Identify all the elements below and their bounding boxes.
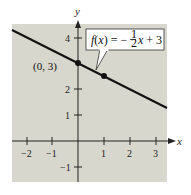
point-x1 [101,73,107,79]
chart: x y −2 −1 1 2 3 4 2 1 −1 (0, 3) f(x) = − [0,0,191,195]
y-tick-label: 1 [65,110,70,121]
y-tick-label: 4 [65,33,70,44]
y-axis-label: y [74,5,80,17]
svg-text:f(x) = −: f(x) = − [91,33,127,47]
x-tick-label: −2 [21,148,32,159]
x-axis-arrow-icon [168,138,176,144]
y-tick-label: 2 [65,84,70,95]
x-tick-label: 2 [127,148,132,159]
svg-text:2: 2 [131,36,137,50]
point-label: (0, 3) [33,60,57,73]
x-tick-label: −1 [46,148,57,159]
y-tick-label: −1 [60,162,71,173]
svg-text:x + 3: x + 3 [137,33,162,47]
point-y-intercept [75,60,81,66]
x-tick-label: 1 [101,148,106,159]
x-tick-label: 3 [153,148,158,159]
x-axis-label: x [176,135,182,147]
